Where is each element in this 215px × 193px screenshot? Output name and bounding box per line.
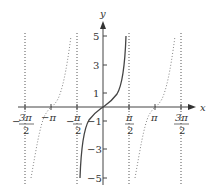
y-tick-5: 5: [93, 31, 99, 42]
x-tick-3pi: 3π: [19, 112, 32, 123]
svg-text:2: 2: [23, 125, 29, 136]
y-tick-3: 3: [93, 60, 99, 71]
x-tick-pi: π: [150, 112, 158, 123]
y-tick-m1: −1: [87, 116, 102, 127]
x-tick-neg-pi-half: π: [73, 112, 81, 123]
svg-text:2: 2: [127, 125, 133, 136]
y-tick-m5: −5: [87, 173, 102, 184]
tangent-chart: x y 5 3 1 −1 −3 −5 − 3π 2 −π − π 2 π 2 π…: [0, 0, 215, 193]
x-axis-label: x: [200, 102, 206, 113]
y-tick-1: 1: [93, 88, 99, 99]
x-axis-arrow-icon: [188, 104, 196, 110]
svg-text:2: 2: [75, 125, 81, 136]
y-tick-m3: −3: [87, 144, 102, 155]
y-axis-arrow-icon: [100, 21, 106, 29]
x-tick-neg-pi: −π: [41, 112, 56, 123]
y-axis-label: y: [99, 8, 106, 19]
x-tick-3pi-half: 3π: [175, 112, 188, 123]
x-tick-pi-half: π: [125, 112, 133, 123]
svg-text:2: 2: [179, 125, 185, 136]
